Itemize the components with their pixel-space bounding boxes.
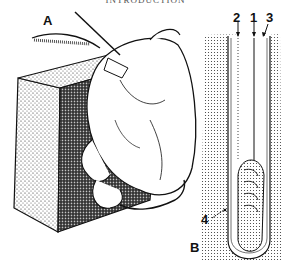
callout-1: 1: [250, 10, 257, 25]
figure-illustration: [0, 0, 291, 273]
panel-a-label: A: [43, 13, 52, 28]
callout-3: 3: [266, 10, 273, 25]
panel-a-drawing: [14, 12, 196, 232]
callout-4: 4: [201, 212, 208, 227]
panel-b-drawing: [200, 22, 282, 262]
callout-2: 2: [233, 10, 240, 25]
panel-b-label: B: [190, 240, 199, 255]
page: INTRODUCTION: [0, 0, 291, 273]
